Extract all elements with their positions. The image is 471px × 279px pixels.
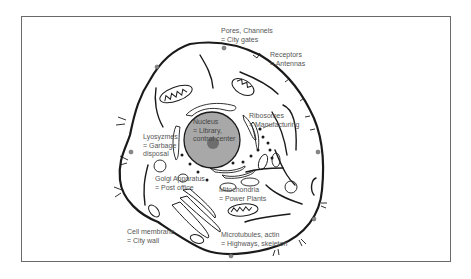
- vesicle: [285, 181, 297, 193]
- label-cell-membrane: Cell membrane = City wall: [127, 228, 174, 245]
- label-ribosomes: Ribosomes = Manufacturing: [249, 112, 299, 129]
- label-nucleus: Nucleus = Library, control center: [193, 118, 235, 144]
- label-mitochondria: Mitochondria = Power Plants: [219, 186, 266, 203]
- label-microtubules: Microtubules, actin = Highways, skeleton: [221, 231, 287, 248]
- label-receptors: Receptors = Antennas: [270, 51, 305, 68]
- lysosome: [154, 160, 166, 172]
- label-golgi: Golgi Apparatus = Post office: [155, 175, 205, 192]
- label-pores: Pores, Channels = City gates: [221, 27, 273, 44]
- label-lysozymes: Lyosyzmes = Garbage disposal: [143, 133, 178, 159]
